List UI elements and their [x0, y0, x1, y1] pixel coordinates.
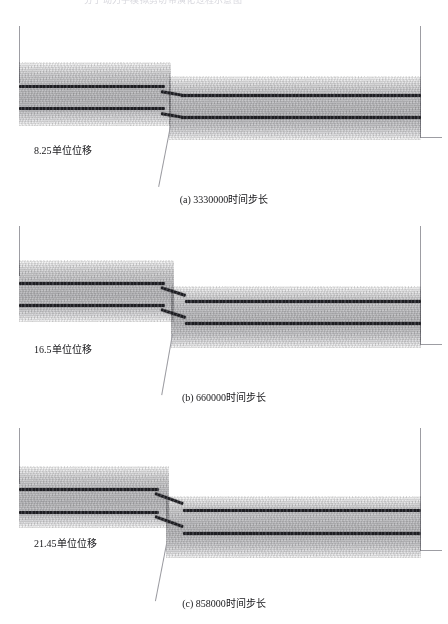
panel-a-stripe-upper-left [19, 85, 165, 88]
panel-c-band-right [166, 496, 421, 558]
panel-a-band-left [19, 62, 171, 126]
panel-b-band-right [171, 286, 421, 348]
panel-b-right-tick [420, 344, 442, 345]
panel-a: 8.25单位位移 (a) 3330000时间步长 [0, 0, 448, 212]
panel-b-stripe-upper-left [19, 282, 165, 285]
panel-b-caption: (b) 660000时间步长 [0, 392, 448, 404]
panel-a-displacement-label: 8.25单位位移 [34, 145, 92, 157]
panel-a-band-right [169, 76, 421, 140]
panel-c-band-left [19, 466, 169, 528]
panel-a-caption: (a) 3330000时间步长 [0, 194, 448, 206]
panel-b-displacement-label: 16.5单位位移 [34, 344, 92, 356]
panel-a-stripe-upper-right [181, 94, 421, 97]
panel-c-specimen [19, 466, 421, 594]
panel-b: 16.5单位位移 (b) 660000时间步长 [0, 212, 448, 414]
panel-a-right-tick [420, 137, 442, 138]
panel-c-displacement-label: 21.45单位位移 [34, 538, 97, 550]
panel-b-stripe-upper-right [185, 300, 421, 303]
panel-b-stripe-lower-right [185, 322, 421, 325]
panel-b-band-left [19, 260, 174, 322]
panel-a-specimen [19, 62, 421, 192]
panel-c-stripe-lower-right [183, 532, 421, 535]
panel-c: 21.45单位位移 (c) 858000时间步长 [0, 414, 448, 624]
panel-b-specimen [19, 260, 421, 385]
panel-c-right-tick [420, 550, 442, 551]
panel-a-stripe-lower-right [181, 116, 421, 119]
panel-b-stripe-lower-left [19, 304, 165, 307]
panel-c-stripe-lower-left [19, 511, 159, 514]
panel-c-stripe-upper-right [183, 509, 421, 512]
panel-c-stripe-upper-left [19, 488, 159, 491]
panel-a-stripe-lower-left [19, 107, 165, 110]
panel-c-caption: (c) 858000时间步长 [0, 598, 448, 610]
